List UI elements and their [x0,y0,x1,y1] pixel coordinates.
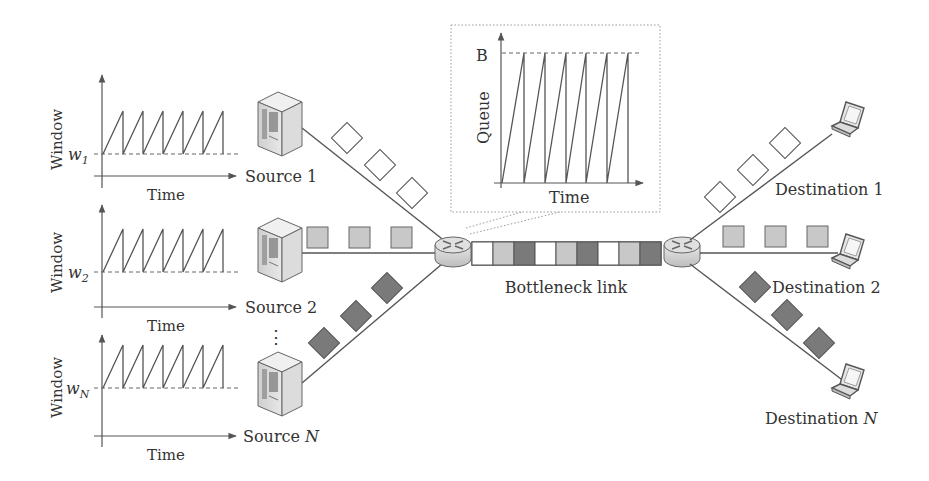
server-icon[interactable] [258,218,302,282]
threshold-label: w1 [68,145,89,167]
link-source-1 [302,128,446,242]
packet [307,227,328,248]
link-source-n [302,264,442,383]
laptop-icon[interactable] [832,364,864,399]
threshold-label: w2 [68,263,89,285]
sawtooth-queue [502,53,628,183]
laptop-icon[interactable] [832,234,864,269]
destination-2-label: Destination 2 [772,278,881,297]
destination-1-packets [704,127,800,212]
x-axis-label: Time [147,317,185,335]
bottleneck-packet [514,242,535,265]
source-n-packets [308,272,402,358]
packet [396,177,427,208]
bottleneck-link: Bottleneck link [472,242,661,297]
packet [349,227,370,248]
y-axis-label: Queue [474,91,493,144]
source-2-label: Source 2 [245,298,317,317]
x-axis-label: Time [147,186,185,204]
destination-1-label: Destination 1 [775,180,884,199]
packet [371,272,402,303]
bottleneck-packet [556,242,577,265]
packet [391,227,412,248]
packet [807,226,828,247]
source-n-label: Source N [243,427,320,446]
packet [771,299,802,330]
y-axis-label: Window [48,357,66,418]
bottleneck-packet [598,242,619,265]
threshold-label: wN [66,379,90,401]
bottleneck-packet [493,242,514,265]
router-icon[interactable] [435,237,471,267]
laptop-icon[interactable] [832,102,864,137]
packet [739,271,770,302]
packet [331,122,362,153]
source-1-packets [331,122,427,208]
packet [340,300,371,331]
bottleneck-packet [640,242,661,265]
ellipsis: ⋮ [267,326,285,347]
server-icon[interactable] [258,92,302,156]
packet [308,327,339,358]
source-2-packets [307,227,412,248]
bottleneck-label: Bottleneck link [505,278,628,297]
packet [769,127,800,158]
bottleneck-packet [535,242,556,265]
bottleneck-packet [577,242,598,265]
bottleneck-packet [619,242,640,265]
destination-n-label: Destination N [765,409,878,428]
bottleneck-packet [472,242,493,265]
source-1-label: Source 1 [245,167,317,186]
packet [364,149,395,180]
callout-line [466,212,522,228]
packet [737,154,768,185]
router-icon[interactable] [664,237,700,267]
sawtooth-window [103,345,223,388]
packet [704,181,735,212]
x-axis-label: Time [549,188,589,207]
y-axis-label: Window [48,232,66,293]
server-icon[interactable] [258,352,302,416]
sawtooth-window [103,111,223,154]
diagram-canvas: Window w1 Time Source 1 Window w2 Time S… [0,0,929,481]
packet [723,226,744,247]
packet [765,226,786,247]
queue-inset: B Queue Time [451,25,660,234]
destination-2-packets [723,226,828,247]
buffer-max-label: B [476,46,488,65]
sawtooth-window [103,229,223,272]
y-axis-label: Window [48,109,66,170]
x-axis-label: Time [147,446,185,464]
